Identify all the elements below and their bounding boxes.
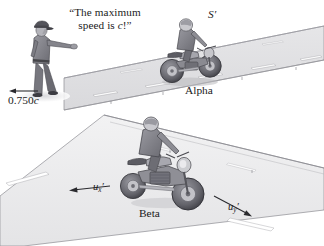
illustration [0,0,324,246]
officer-speed-value: 0.750 [8,94,34,106]
ux-prime-label: ux′ [93,181,104,194]
officer-speed-unit: c [34,94,39,106]
quote-line-1: “The maximum [69,6,141,18]
beta-label: Beta [139,207,160,220]
uy-prime: ′ [237,201,239,212]
alpha-label: Alpha [185,84,213,97]
officer-quote: “The maximumspeed is c!” [48,6,162,31]
ux-prime: ′ [102,181,104,192]
quote-line-2-pre: speed is [78,19,117,31]
officer-speed-label: 0.750c [8,94,39,107]
figure-canvas: “The maximumspeed is c!” 0.750c S′ Alpha… [0,0,324,246]
quote-line-2-post: !” [123,19,132,31]
uy-prime-label: uy′ [228,201,239,214]
frame-label-s-prime: S′ [208,8,216,21]
